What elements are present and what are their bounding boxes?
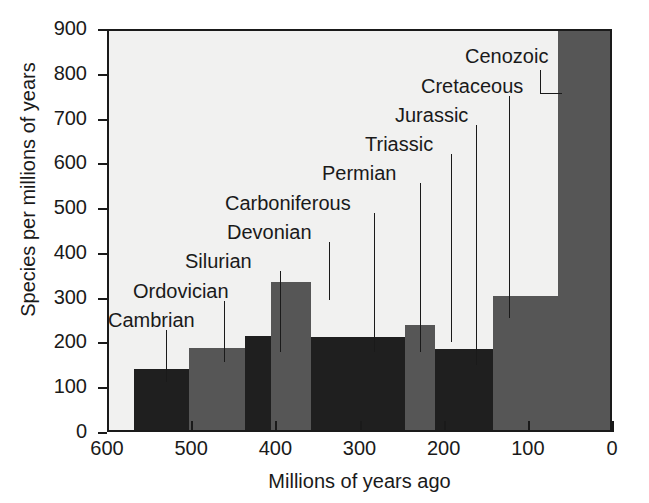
leader-line-carboniferous [374,213,375,352]
bar-silurian [245,336,270,430]
bar-permian [373,337,405,430]
bar-cenozoic [558,29,612,430]
x-tick-label: 600 [77,438,137,458]
period-label-cambrian: Cambrian [108,310,195,330]
period-label-cretaceous: Cretaceous [421,76,523,96]
x-axis-title: Millions of years ago [107,470,612,493]
y-tick-mark [98,208,107,210]
leader-line-cambrian [166,330,167,382]
leader-line-silurian [280,271,281,352]
leader-line-cenozoic [540,70,541,93]
y-axis-title: Species per millions of years [17,0,40,390]
y-tick-mark [98,298,107,300]
period-label-permian: Permian [322,163,396,183]
plot-area [107,29,612,432]
x-tick-label: 300 [330,438,390,458]
y-tick-mark [98,387,107,389]
period-label-jurassic: Jurassic [395,105,468,125]
bar-carboniferous [311,337,373,430]
y-tick-mark [98,163,107,165]
leader-line-cretaceous [509,96,510,318]
leader-line-permian [420,183,421,352]
leader-elbow-cenozoic [540,93,562,94]
chart-figure: 0100200300400500600700800900 60050040030… [0,0,649,503]
y-tick-mark [98,253,107,255]
y-tick-label: 0 [23,421,87,441]
bar-cambrian [134,369,189,430]
bar-devonian [271,282,311,430]
x-tick-label: 0 [582,438,642,458]
y-tick-mark [98,29,107,31]
period-label-carboniferous: Carboniferous [225,193,351,213]
leader-line-triassic [451,154,452,342]
y-tick-mark [98,119,107,121]
x-tick-label: 400 [245,438,305,458]
period-label-ordovician: Ordovician [133,281,229,301]
y-tick-mark [98,74,107,76]
x-tick-mark [612,421,614,432]
y-tick-mark [98,342,107,344]
x-tick-label: 100 [498,438,558,458]
x-tick-label: 200 [414,438,474,458]
bar-series [109,31,610,430]
period-label-devonian: Devonian [227,222,312,242]
leader-line-devonian [329,242,330,300]
period-label-silurian: Silurian [185,251,252,271]
period-label-triassic: Triassic [365,134,433,154]
y-tick-mark [98,432,107,434]
period-label-cenozoic: Cenozoic [465,46,548,66]
x-tick-label: 500 [161,438,221,458]
leader-line-ordovician [224,301,225,362]
bar-jurassic [435,349,493,430]
bar-ordovician [189,348,245,430]
bar-cretaceous [493,296,559,430]
leader-line-jurassic [476,125,477,365]
